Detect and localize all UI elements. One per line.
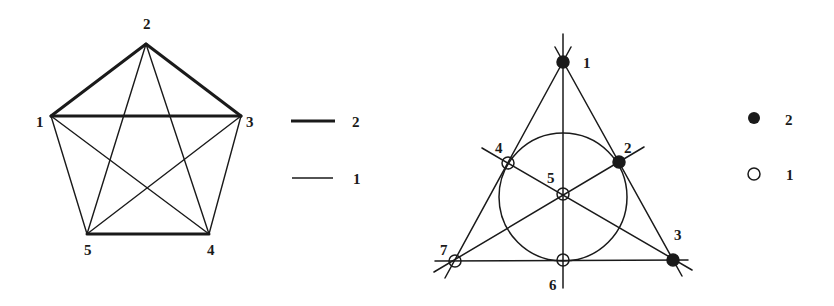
point-label-7: 7 [440, 242, 448, 258]
point-2-filled-dot [613, 156, 625, 168]
diagram-canvas: 1 2 3 4 5 2 1 1 2 [0, 0, 834, 306]
point-3-filled-dot [667, 254, 679, 266]
fano-plane [434, 34, 692, 288]
vertex-label-4: 4 [207, 242, 215, 258]
edge-3-4 [209, 116, 241, 234]
point-label-1: 1 [583, 55, 591, 71]
point-1-filled-dot [557, 56, 569, 68]
legend-filled-dot-icon [748, 112, 760, 124]
vertex-label-2: 2 [143, 16, 151, 32]
edge-1-4 [51, 116, 209, 234]
legend-label-open: 1 [786, 167, 794, 183]
edge-2-4 [146, 44, 209, 234]
fano-line-7-6-3 [435, 260, 688, 261]
edge-1-5 [51, 116, 87, 234]
legend-open-dot-icon [748, 168, 760, 180]
point-weight-legend: 2 1 [748, 112, 794, 183]
point-label-5: 5 [547, 170, 555, 186]
fano-points [449, 56, 679, 267]
point-label-6: 6 [549, 277, 557, 293]
legend-label-filled: 2 [785, 112, 793, 128]
legend-label-weight-2: 2 [352, 114, 360, 130]
edge-2-3 [146, 44, 241, 116]
vertex-label-5: 5 [84, 242, 92, 258]
pentagon-graph [51, 44, 241, 234]
edge-1-2 [51, 44, 146, 116]
pentagon-vertex-labels: 1 2 3 4 5 [36, 16, 254, 258]
edge-weight-legend: 2 1 [291, 114, 361, 187]
legend-label-weight-1: 1 [353, 171, 361, 187]
fano-point-labels: 1 2 3 4 5 6 7 [440, 55, 682, 293]
vertex-label-3: 3 [246, 114, 254, 130]
edge-2-5 [87, 44, 146, 234]
point-label-2: 2 [624, 140, 632, 156]
vertex-label-1: 1 [36, 114, 44, 130]
point-label-3: 3 [674, 227, 682, 243]
point-label-4: 4 [495, 140, 503, 156]
fano-line-7-5-2 [434, 147, 644, 272]
edge-3-5 [87, 116, 241, 234]
